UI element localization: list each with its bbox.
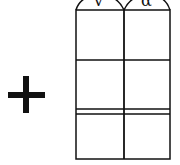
column-label-right: α [141, 0, 152, 10]
grid-diagram [0, 0, 180, 165]
grid-frame [76, 10, 170, 159]
column-label-left: v [94, 0, 103, 10]
